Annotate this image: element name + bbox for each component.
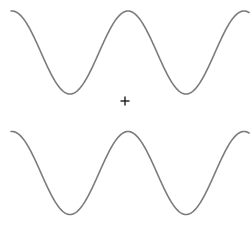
stimulus-canvas (0, 0, 250, 230)
figure-background (0, 0, 250, 230)
stimulus-figure (0, 0, 250, 230)
